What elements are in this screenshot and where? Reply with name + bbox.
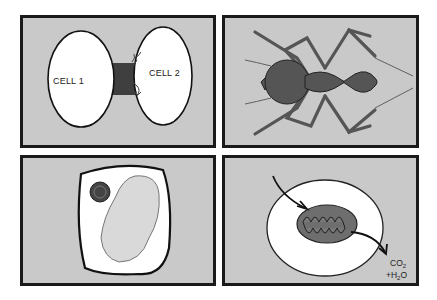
two-cells-illustration [23, 18, 213, 145]
ant-thorax [305, 72, 345, 92]
mitochondrion [297, 205, 357, 243]
ant-illustration [225, 18, 416, 145]
ant-antenna [245, 60, 271, 66]
mitochondrion-illustration [225, 158, 416, 283]
panel-ant [222, 15, 419, 148]
ant-abdomen-line [375, 58, 413, 76]
ant-head [265, 60, 309, 104]
h2o-label: +H2O [386, 270, 407, 283]
cell-2-label: CELL 2 [149, 68, 180, 78]
cell-1-label: CELL 1 [53, 76, 84, 86]
plant-cell-illustration [23, 158, 213, 283]
ant-gaster [343, 72, 377, 93]
nucleus [90, 182, 110, 202]
ant-abdomen-line [375, 88, 413, 108]
ant-antenna [245, 98, 271, 104]
panel-two-cells: CELL 1 CELL 2 [20, 15, 216, 148]
panel-mitochondrion: CO2 +H2O [222, 155, 419, 286]
panel-plant-cell [20, 155, 216, 286]
